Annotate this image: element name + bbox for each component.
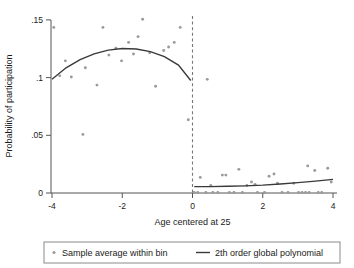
left-polynomial-fit: [52, 49, 191, 81]
scatter-point: [228, 191, 231, 194]
scatter-point: [196, 191, 199, 194]
scatter-point: [193, 191, 196, 194]
scatter-point: [101, 26, 104, 29]
scatter-point: [263, 191, 266, 194]
x-tick-label-2: 2: [260, 201, 265, 211]
y-tick-label-1: .1: [36, 73, 43, 83]
scatter-point: [308, 191, 311, 194]
scatter-point: [120, 59, 123, 62]
scatter-point: [127, 41, 130, 44]
legend-label-line: 2th order global polynomial: [215, 248, 323, 258]
scatter-point: [64, 59, 67, 62]
scatter-point: [52, 26, 55, 29]
scatter-point: [132, 52, 135, 55]
scatter-point: [233, 191, 236, 194]
scatter-point: [58, 74, 61, 77]
scatter-point: [206, 78, 209, 81]
scatter-point: [154, 85, 157, 88]
x-axis-ticks: -4 -2 0 2 4: [48, 193, 335, 211]
scatter-point: [162, 49, 165, 52]
scatter-point: [304, 191, 307, 194]
scatter-point: [179, 26, 182, 29]
scatter-point: [297, 191, 300, 194]
scatter-point: [84, 66, 87, 69]
scatter-point: [224, 174, 227, 177]
scatter-point: [81, 133, 84, 136]
scatter-point: [250, 181, 253, 184]
scatter-point: [167, 46, 170, 49]
scatter-point: [96, 84, 99, 87]
scatter-point: [306, 164, 309, 167]
scatter-point: [241, 191, 244, 194]
figure-container: Probability of participation 0 .05 .1 .1…: [0, 0, 354, 268]
scatter-point: [216, 191, 219, 194]
scatter-point: [237, 168, 240, 171]
x-tick-label-0: 0: [190, 201, 195, 211]
scatter-point: [256, 191, 259, 194]
legend-label-scatter: Sample average within bin: [62, 248, 168, 258]
scatter-point: [107, 54, 110, 57]
legend: Sample average within bin 2th order glob…: [44, 242, 340, 263]
scatter-point: [173, 41, 176, 44]
scatter-point: [221, 174, 224, 177]
y-axis-ticks: 0 .05 .1 .15: [31, 15, 51, 198]
x-tick-label-neg4: -4: [48, 201, 56, 211]
x-tick-label-neg2: -2: [118, 201, 126, 211]
regression-discontinuity-chart: Probability of participation 0 .05 .1 .1…: [0, 0, 354, 268]
scatter-point: [187, 118, 190, 121]
scatter-point: [281, 191, 284, 194]
y-axis-title: Probability of participation: [4, 54, 14, 157]
scatter-point: [326, 167, 329, 170]
x-axis-title: Age centered at 25: [154, 217, 230, 227]
legend-marker-scatter-icon: [53, 251, 56, 254]
scatter-point: [301, 191, 304, 194]
scatter-point: [320, 191, 323, 194]
scatter-point: [330, 181, 333, 184]
scatter-point: [204, 191, 207, 194]
scatter-point: [273, 173, 276, 176]
scatter-point: [70, 76, 73, 79]
scatter-point: [199, 176, 202, 179]
y-tick-label-05: .05: [31, 130, 43, 140]
y-tick-label-0: 0: [38, 188, 43, 198]
scatter-point: [137, 35, 140, 38]
scatter-point: [317, 191, 320, 194]
scatter-point: [287, 191, 290, 194]
scatter-point: [268, 175, 271, 178]
y-tick-label-15: .15: [31, 15, 43, 25]
right-polynomial-fit: [194, 179, 333, 186]
scatter-point: [141, 18, 144, 21]
scatter-point: [313, 169, 316, 172]
x-tick-label-4: 4: [331, 201, 336, 211]
scatter-point: [211, 191, 214, 194]
